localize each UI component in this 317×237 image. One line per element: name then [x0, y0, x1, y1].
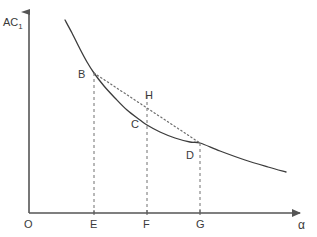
point-label-c: C: [131, 119, 139, 130]
x-tick-label-f: F: [143, 219, 150, 230]
economics-cost-curve-figure: AC1 α O BHCD EFG: [0, 0, 317, 237]
chart-canvas: [0, 0, 317, 237]
origin-label: O: [24, 219, 33, 230]
y-axis-label: AC1: [3, 17, 23, 31]
x-tick-label-e: E: [90, 219, 97, 230]
point-label-b: B: [78, 69, 85, 80]
x-axis-label: α: [298, 219, 305, 231]
point-label-h: H: [145, 90, 153, 101]
point-label-d: D: [186, 150, 194, 161]
x-tick-label-g: G: [196, 219, 205, 230]
y-axis-label-text: AC: [3, 16, 18, 28]
ac1-curve: [65, 20, 286, 172]
y-axis-label-subscript: 1: [18, 22, 22, 31]
